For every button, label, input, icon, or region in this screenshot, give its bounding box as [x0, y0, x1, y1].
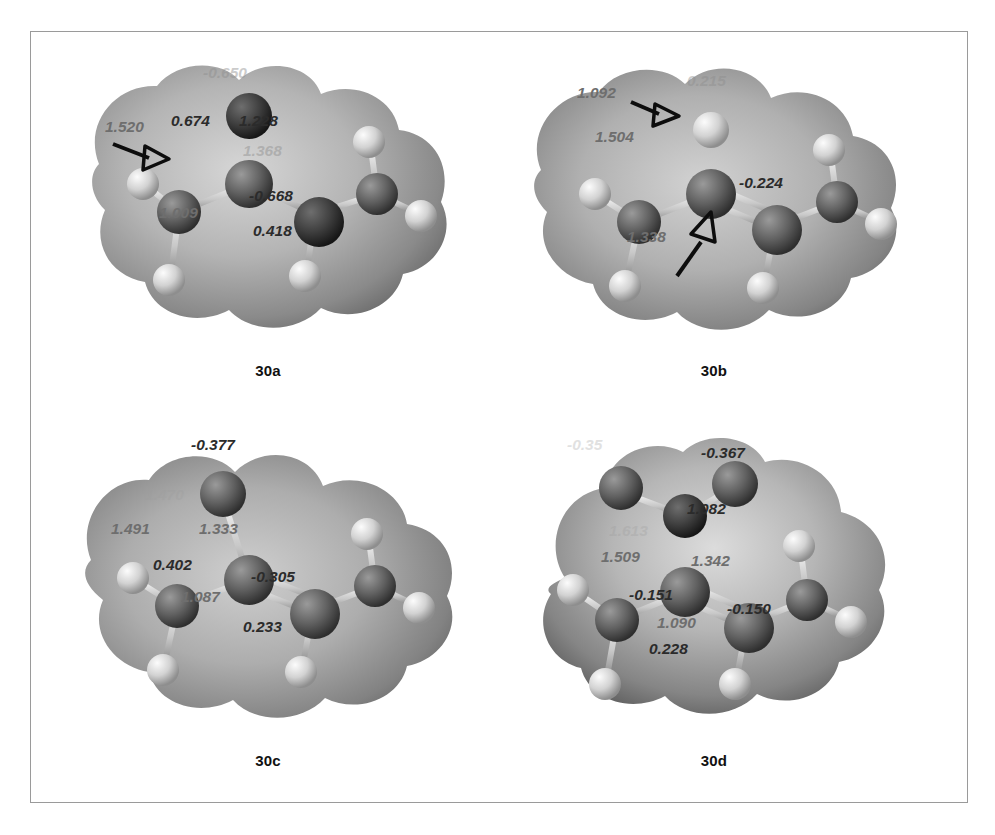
molecule-render-30d: -0.35-0.3671.0821.6131.5091.342-0.151-0.…	[499, 432, 929, 732]
figure-root: 1.5200.6741.228-0.6501.3681.009-0.6680.4…	[0, 0, 995, 835]
charge-obscured: -0.35	[567, 436, 603, 453]
charge-c2: 0.402	[153, 556, 192, 573]
bond-length-c1-c2: 1.504	[595, 128, 634, 145]
bond-length-c3-h: 1.090	[657, 614, 696, 631]
charge-c3: -0.668	[249, 187, 293, 204]
atom-carbon-c3	[290, 589, 340, 639]
atom-carbon-c4	[356, 173, 398, 215]
bond-length-c3-h: 1.087	[181, 588, 221, 605]
charge-c2: 0.674	[171, 112, 210, 129]
bond-length-c2-o: 1.228	[239, 112, 278, 129]
atom-hydrogen	[127, 168, 159, 200]
panel-caption-30a: 30a	[53, 362, 483, 379]
atom-carbon-c3	[294, 197, 344, 247]
electron-density-surface-30d: -0.35-0.3671.0821.6131.5091.342-0.151-0.…	[499, 432, 929, 732]
charge-c3: -0.305	[251, 568, 295, 585]
atom-hydrogen	[579, 178, 611, 210]
charge-oxygen: -0.650	[203, 64, 247, 81]
atom-hydrogen	[589, 668, 621, 700]
bond-length-c2-c3: 1.333	[199, 520, 238, 537]
molecule-render-30a: 1.5200.6741.228-0.6501.3681.009-0.6680.4…	[53, 46, 483, 346]
atom-hydrogen	[609, 270, 641, 302]
atom-hydrogen	[147, 654, 179, 686]
electron-density-surface-30c: -0.3771.4701.4911.3330.402-0.3051.0870.2…	[53, 432, 483, 732]
electron-density-surface-30a: 1.5200.6741.228-0.6501.3681.009-0.6680.4…	[53, 46, 483, 346]
bond-length-c2-c3: 1.342	[691, 552, 730, 569]
atom-carbon-c1	[595, 598, 639, 642]
charge-c3: -0.150	[727, 600, 771, 617]
atom-hydrogen	[353, 126, 385, 158]
charge-h3: 0.233	[243, 618, 282, 635]
atom-hydrogen	[813, 134, 845, 166]
bond-length-c3-h: 1.009	[159, 204, 198, 221]
figure-frame: 1.5200.6741.228-0.6501.3681.009-0.6680.4…	[30, 31, 968, 803]
atom-hydrogen	[557, 574, 589, 606]
charge-h3: 0.228	[649, 640, 688, 657]
electron-density-surface-30b: 1.0920.2151.504-0.2241.338	[499, 46, 929, 346]
atom-hydrogen	[783, 530, 815, 562]
panel-30c: -0.3771.4701.4911.3330.402-0.3051.0870.2…	[53, 432, 483, 792]
bond-length-c1-c2: 1.491	[111, 520, 150, 537]
atom-hydrogen	[865, 208, 897, 240]
atom-hydrogen	[285, 656, 317, 688]
atom-hydrogen	[117, 562, 149, 594]
atom-hydrogen	[835, 606, 867, 638]
atom-hydrogen	[403, 592, 435, 624]
panel-30a: 1.5200.6741.228-0.6501.3681.009-0.6680.4…	[53, 46, 483, 406]
molecule-render-30c: -0.3771.4701.4911.3330.402-0.3051.0870.2…	[53, 432, 483, 732]
panel-caption-30c: 30c	[53, 752, 483, 769]
charge-c3: -0.224	[739, 174, 783, 191]
atom-carbon-c4	[816, 181, 858, 223]
atom-hydrogen	[351, 518, 383, 550]
bond-length-hidden: 1.613	[609, 522, 648, 539]
panel-30b: 1.0920.2151.504-0.2241.338 30b	[499, 46, 929, 406]
atom-carbon-methyl	[200, 471, 246, 517]
panel-caption-30b: 30b	[499, 362, 929, 379]
atom-carbon-upper-left	[599, 466, 643, 510]
charge-methyl-top: -0.367	[701, 444, 746, 461]
bond-length-hidden: 1.470	[145, 486, 184, 503]
atom-hydrogen	[289, 260, 321, 292]
bond-length-c-h: 1.092	[577, 84, 616, 101]
bond-length-c-h-top: 1.082	[687, 500, 726, 517]
charge-h-vinyl: 0.215	[687, 72, 726, 89]
atom-carbon-c4	[354, 565, 396, 607]
atom-carbon-c4	[786, 579, 828, 621]
bond-length-c2-c3: 1.368	[243, 142, 282, 159]
atom-hydrogen	[405, 200, 437, 232]
atom-hydrogen	[719, 668, 751, 700]
panel-caption-30d: 30d	[499, 752, 929, 769]
charge-c1: -0.151	[629, 586, 673, 603]
atom-carbon-c3	[752, 205, 802, 255]
bond-length-c1-c2: 1.509	[601, 548, 640, 565]
atom-hydrogen	[747, 272, 779, 304]
bond-length-c1-c2: 1.520	[105, 118, 144, 135]
panel-30d: -0.35-0.3671.0821.6131.5091.342-0.151-0.…	[499, 432, 929, 792]
charge-h3: 0.418	[253, 222, 292, 239]
molecule-render-30b: 1.0920.2151.504-0.2241.338	[499, 46, 929, 346]
bond-length-c2-c3: 1.338	[627, 228, 666, 245]
charge-methyl-top: -0.377	[191, 436, 236, 453]
atom-hydrogen	[693, 112, 729, 148]
atom-hydrogen	[153, 264, 185, 296]
